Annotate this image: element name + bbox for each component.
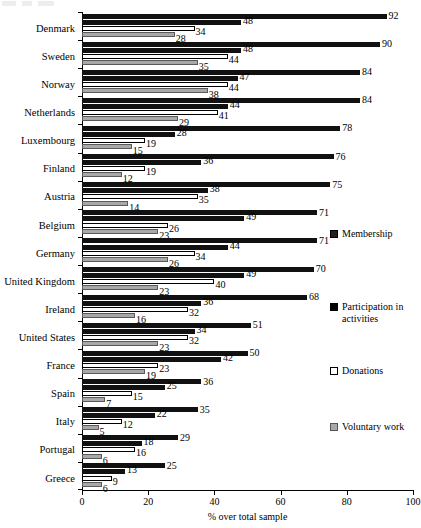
bar-donations: 35	[82, 194, 198, 199]
bar-value-label: 71	[319, 207, 329, 218]
bar-value-label: 49	[246, 268, 256, 279]
bar-voluntary: 38	[82, 88, 208, 93]
legend-item-participation[interactable]: Participation in activities	[330, 301, 416, 324]
bar-participation: 34	[82, 329, 195, 334]
bar-donations: 34	[82, 251, 195, 256]
bar-membership: 51	[82, 323, 251, 328]
bar-value-label: 23	[159, 363, 169, 374]
bar-value-label: 22	[157, 408, 167, 419]
bar-participation: 22	[82, 413, 155, 418]
bar-value-label: 29	[180, 432, 190, 443]
bar-participation: 36	[82, 160, 201, 165]
bar-value-label: 6	[103, 483, 108, 494]
bar-value-label: 19	[146, 138, 156, 149]
bar-value-label: 34	[196, 26, 206, 37]
bar-donations: 19	[82, 138, 145, 143]
x-axis-tick	[148, 490, 149, 495]
bar-donations: 23	[82, 363, 158, 368]
bar-membership: 70	[82, 267, 314, 272]
legend-swatch-voluntary-icon	[330, 423, 338, 431]
bar-membership: 75	[82, 182, 330, 187]
bar-membership: 71	[82, 238, 317, 243]
country-label: Norway	[41, 80, 75, 90]
bar-voluntary: 23	[82, 229, 158, 234]
country-label: Italy	[56, 417, 75, 427]
legend-swatch-donations-icon	[330, 367, 338, 375]
bar-donations: 9	[82, 476, 112, 481]
bar-chart: Denmark92483428Sweden90484435Norway84474…	[0, 0, 421, 528]
bar-membership: 71	[82, 210, 317, 215]
country-group: Netherlands84444129	[82, 98, 413, 126]
country-group: Luxembourg78281915	[82, 126, 413, 154]
x-axis-tick-label: 0	[62, 496, 102, 508]
bar-value-label: 13	[127, 464, 137, 475]
legend-swatch-membership-icon	[330, 230, 338, 238]
bar-value-label: 25	[167, 380, 177, 391]
bar-value-label: 76	[336, 151, 346, 162]
bar-value-label: 92	[389, 10, 399, 21]
bar-value-label: 90	[382, 38, 392, 49]
bar-voluntary: 16	[82, 313, 135, 318]
bar-voluntary: 6	[82, 482, 102, 487]
bar-value-label: 32	[189, 307, 199, 318]
x-axis-tick-label: 60	[261, 496, 301, 508]
bar-participation: 44	[82, 104, 228, 109]
bar-participation: 48	[82, 20, 241, 25]
bar-value-label: 48	[243, 43, 253, 54]
country-label: Denmark	[36, 24, 75, 34]
bar-value-label: 34	[196, 251, 206, 262]
bar-value-label: 19	[146, 166, 156, 177]
bar-voluntary: 23	[82, 341, 158, 346]
country-label: Germany	[36, 249, 75, 259]
bar-membership: 36	[82, 379, 201, 384]
legend-label: Donations	[342, 365, 383, 377]
legend-item-donations[interactable]: Donations	[330, 365, 383, 377]
bar-value-label: 41	[219, 110, 229, 121]
bar-value-label: 84	[362, 66, 372, 77]
bar-participation: 44	[82, 245, 228, 250]
bar-value-label: 9	[113, 476, 118, 487]
bar-value-label: 44	[230, 99, 240, 110]
country-group: Denmark92483428	[82, 14, 413, 42]
bar-voluntary: 28	[82, 32, 175, 37]
bar-value-label: 49	[246, 211, 256, 222]
x-axis-tick	[347, 490, 348, 495]
bar-value-label: 25	[167, 460, 177, 471]
country-label: Luxembourg	[21, 136, 75, 146]
legend-item-membership[interactable]: Membership	[330, 228, 393, 240]
country-label: Greece	[45, 474, 75, 484]
bar-membership: 35	[82, 407, 198, 412]
bar-voluntary: 12	[82, 172, 122, 177]
legend-item-voluntary[interactable]: Voluntary work	[330, 421, 404, 433]
country-group: Portugal2918166	[82, 435, 413, 463]
bar-value-label: 42	[223, 352, 233, 363]
bar-donations: 19	[82, 166, 145, 171]
bar-voluntary: 14	[82, 201, 128, 206]
bar-voluntary: 7	[82, 397, 105, 402]
bar-participation: 42	[82, 357, 221, 362]
bar-value-label: 16	[136, 447, 146, 458]
bar-donations: 44	[82, 82, 228, 87]
bar-voluntary: 5	[82, 425, 99, 430]
bar-participation: 38	[82, 188, 208, 193]
bar-value-label: 35	[199, 194, 209, 205]
country-label: United States	[19, 333, 75, 343]
bar-voluntary: 23	[82, 285, 158, 290]
bar-membership: 78	[82, 126, 340, 131]
bar-value-label: 36	[203, 296, 213, 307]
bar-value-label: 44	[229, 54, 239, 65]
country-label: Ireland	[45, 305, 75, 315]
bar-donations: 12	[82, 419, 122, 424]
legend-label: Participation in activities	[342, 301, 416, 324]
country-label: Spain	[51, 389, 75, 399]
bar-voluntary: 19	[82, 369, 145, 374]
x-axis-tick-label: 80	[327, 496, 367, 508]
bar-donations: 44	[82, 54, 228, 59]
bar-donations: 16	[82, 447, 135, 452]
bar-voluntary: 15	[82, 144, 132, 149]
bar-value-label: 70	[316, 263, 326, 274]
bar-membership: 84	[82, 70, 360, 75]
scan-artifact	[2, 1, 58, 6]
country-label: Portugal	[39, 445, 75, 455]
bar-value-label: 15	[133, 391, 143, 402]
